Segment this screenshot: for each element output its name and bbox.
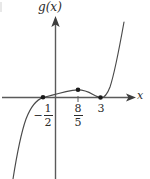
y-axis-label: g(x) — [38, 1, 62, 13]
fraction-eight-fifths: 8 5 — [74, 103, 83, 128]
fraction-denominator: 5 — [74, 117, 83, 128]
function-graph-figure: g(x) x − 1 2 8 5 3 — [0, 0, 150, 179]
tick-label-eight-fifths: 8 5 — [66, 103, 90, 128]
point-local-max — [76, 88, 81, 93]
fraction-numerator: 1 — [44, 103, 53, 114]
fraction-numerator: 8 — [74, 103, 83, 114]
graph-canvas — [0, 0, 150, 179]
minus-sign: − — [33, 110, 43, 121]
tick-label-three: 3 — [93, 103, 109, 114]
fraction-denominator: 2 — [44, 117, 53, 128]
x-axis-label: x — [137, 90, 143, 101]
point-root-three — [98, 95, 103, 100]
fraction-one-half: 1 2 — [44, 103, 53, 128]
x-axis — [2, 94, 136, 102]
curve-g-of-x — [13, 22, 124, 179]
point-root-negative-half — [41, 95, 46, 100]
tick-label-negative-one-half: − 1 2 — [28, 103, 58, 128]
